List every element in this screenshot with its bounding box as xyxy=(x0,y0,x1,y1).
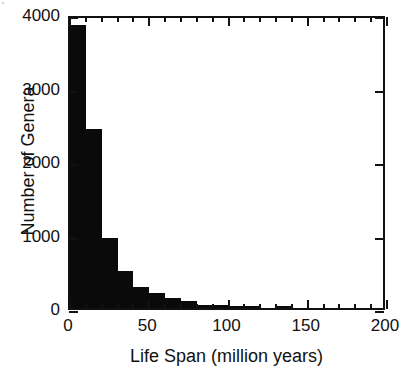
y-axis-tick xyxy=(69,238,78,240)
histogram-bar xyxy=(197,305,213,308)
x-tick-label: 50 xyxy=(138,316,157,336)
y-tick-label: 4000 xyxy=(22,7,60,25)
x-axis-tick xyxy=(386,300,388,309)
x-axis-tick xyxy=(69,300,71,309)
x-axis-tick xyxy=(323,304,325,309)
x-axis-tick xyxy=(243,304,245,309)
x-axis-tick xyxy=(85,304,87,309)
x-axis-tick xyxy=(386,17,388,26)
x-axis-tick xyxy=(275,304,277,309)
x-axis-tick xyxy=(354,304,356,309)
histogram-bar xyxy=(244,306,260,308)
plot-area xyxy=(68,16,385,310)
x-tick-label: 100 xyxy=(212,316,240,336)
y-axis-tick xyxy=(69,164,78,166)
x-axis-tick xyxy=(132,304,134,309)
x-axis-tick xyxy=(180,304,182,309)
histogram-bar xyxy=(181,301,197,308)
y-tick-label: 2000 xyxy=(22,154,60,172)
y-tick-label-group: 01000200030004000 xyxy=(0,0,60,373)
x-axis-tick xyxy=(101,304,103,309)
x-tick-label: 200 xyxy=(371,316,399,336)
y-tick-label: 1000 xyxy=(22,228,60,246)
x-axis-tick xyxy=(148,300,150,309)
y-axis-tick xyxy=(375,17,384,19)
x-axis-tick xyxy=(212,304,214,309)
histogram-bar xyxy=(276,306,292,308)
x-axis-tick xyxy=(85,17,87,22)
x-axis-tick xyxy=(164,17,166,22)
x-axis-tick xyxy=(180,17,182,22)
x-axis-tick xyxy=(307,17,309,26)
histogram-bar xyxy=(102,238,118,308)
x-axis-tick xyxy=(323,17,325,22)
x-axis-title: Life Span (million years) xyxy=(68,345,385,367)
x-axis-tick xyxy=(243,17,245,22)
y-axis-tick xyxy=(375,311,384,313)
histogram-bar xyxy=(118,271,134,308)
x-axis-tick xyxy=(291,17,293,22)
histogram-figure: ' Number of Genera 01000200030004000 050… xyxy=(0,0,405,373)
y-axis-tick xyxy=(69,17,78,19)
x-tick-label: 150 xyxy=(292,316,320,336)
x-axis-tick xyxy=(132,17,134,22)
x-axis-tick xyxy=(259,17,261,22)
x-axis-tick xyxy=(212,17,214,22)
y-axis-tick xyxy=(69,91,78,93)
x-axis-tick xyxy=(164,304,166,309)
x-axis-tick xyxy=(291,304,293,309)
histogram-bar xyxy=(165,298,181,308)
x-axis-tick xyxy=(354,17,356,22)
x-axis-tick xyxy=(228,300,230,309)
x-axis-tick xyxy=(338,304,340,309)
x-axis-tick xyxy=(101,17,103,22)
x-axis-tick xyxy=(117,304,119,309)
y-tick-label: 3000 xyxy=(22,81,60,99)
x-axis-tick xyxy=(275,17,277,22)
x-axis-tick xyxy=(117,17,119,22)
x-axis-tick xyxy=(307,300,309,309)
x-axis-tick xyxy=(196,304,198,309)
histogram-bar xyxy=(133,287,149,308)
x-tick-label: 0 xyxy=(63,316,72,336)
x-axis-tick xyxy=(148,17,150,26)
x-axis-tick xyxy=(338,17,340,22)
y-axis-tick xyxy=(375,164,384,166)
histogram-bar xyxy=(229,306,245,308)
y-axis-tick xyxy=(375,238,384,240)
y-tick-label: 0 xyxy=(51,301,60,319)
x-axis-tick xyxy=(228,17,230,26)
x-axis-tick xyxy=(259,304,261,309)
y-axis-tick xyxy=(375,91,384,93)
histogram-bar xyxy=(213,305,229,308)
x-axis-tick xyxy=(370,304,372,309)
y-axis-tick xyxy=(69,311,78,313)
x-axis-tick xyxy=(370,17,372,22)
histogram-bar xyxy=(70,25,86,308)
x-axis-tick xyxy=(196,17,198,22)
bars-layer xyxy=(70,18,383,308)
histogram-bar xyxy=(86,129,102,308)
histogram-bar xyxy=(149,293,165,308)
